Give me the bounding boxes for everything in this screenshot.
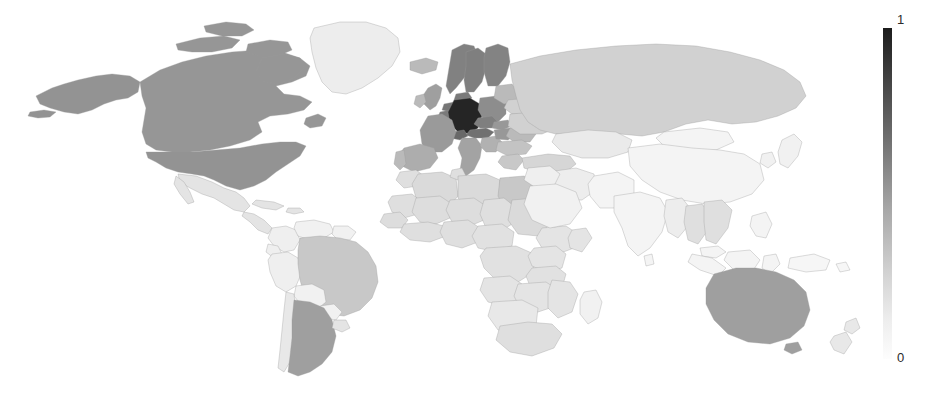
choropleth-figure: 1 0 bbox=[0, 0, 925, 395]
colorbar-min-label: 0 bbox=[897, 351, 904, 364]
region-south-africa bbox=[496, 322, 562, 356]
region-canada-arctic-1 bbox=[176, 36, 240, 52]
region-cuba bbox=[252, 200, 284, 210]
region-tasmania bbox=[784, 342, 802, 354]
region-papua-new-guinea bbox=[788, 254, 830, 272]
region-iceland bbox=[410, 58, 438, 74]
region-finland bbox=[484, 44, 510, 86]
region-mozambique bbox=[548, 280, 578, 318]
region-greece bbox=[498, 154, 524, 170]
region-united-kingdom bbox=[424, 84, 442, 110]
world-map bbox=[0, 0, 862, 395]
region-malaysia bbox=[700, 246, 726, 258]
region-bulgaria-serbia bbox=[496, 140, 532, 156]
region-india bbox=[614, 192, 668, 256]
region-australia bbox=[706, 268, 810, 344]
region-pacific-islands bbox=[836, 262, 850, 272]
region-sri-lanka bbox=[644, 254, 654, 266]
colorbar-max-label: 1 bbox=[897, 13, 904, 26]
region-west-africa-coast bbox=[400, 222, 446, 242]
region-new-zealand-north bbox=[844, 318, 860, 334]
region-kazakhstan bbox=[552, 130, 632, 158]
region-russia bbox=[510, 44, 806, 136]
region-ireland bbox=[414, 94, 426, 108]
region-korea bbox=[760, 152, 776, 168]
region-new-zealand-south bbox=[830, 332, 852, 354]
region-aleutians bbox=[28, 110, 56, 118]
region-alaska bbox=[36, 74, 140, 114]
region-philippines bbox=[750, 212, 772, 238]
region-madagascar bbox=[580, 290, 602, 324]
region-greenland bbox=[310, 22, 400, 94]
region-hispaniola bbox=[286, 208, 304, 214]
region-laos-vietnam bbox=[704, 200, 732, 244]
value-colorbar: 1 0 bbox=[878, 0, 925, 395]
region-canada-newfoundland bbox=[304, 114, 326, 128]
world-map-svg bbox=[0, 0, 862, 395]
colorbar-gradient bbox=[883, 28, 892, 359]
region-sweden bbox=[464, 48, 486, 92]
region-somalia bbox=[568, 228, 592, 252]
region-japan bbox=[778, 134, 802, 168]
region-canada-arctic-2 bbox=[204, 22, 254, 36]
region-central-america bbox=[242, 212, 272, 234]
